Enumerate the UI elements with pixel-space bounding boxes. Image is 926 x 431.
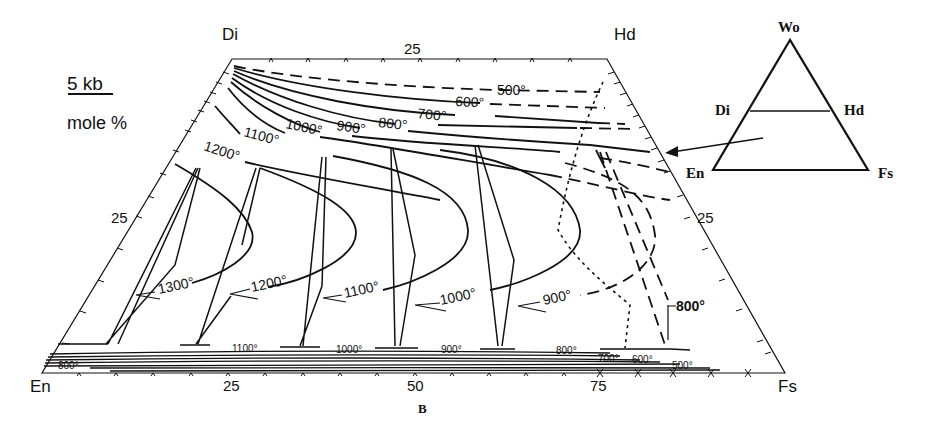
bottom-axis-label-50: 50 bbox=[407, 377, 424, 394]
inset-label-di: Di bbox=[715, 102, 730, 118]
svg-text:900°: 900° bbox=[541, 286, 573, 308]
inset-label-wo: Wo bbox=[778, 19, 800, 35]
corner-label-hd: Hd bbox=[614, 25, 636, 44]
svg-text:1100°: 1100° bbox=[342, 278, 380, 301]
top-axis-label-25: 25 bbox=[404, 40, 421, 57]
units-label: mole % bbox=[67, 113, 127, 133]
svg-text:700°: 700° bbox=[417, 105, 447, 124]
svg-text:1000°: 1000° bbox=[336, 344, 362, 355]
lower-isotherm-labels: 800° 1100° 1000° 900° 800° 700° 600° 500… bbox=[58, 343, 693, 371]
svg-text:1300°: 1300° bbox=[156, 274, 195, 297]
arrow-icon bbox=[672, 138, 763, 152]
bottom-axis-label-25: 25 bbox=[223, 377, 240, 394]
corner-label-di: Di bbox=[222, 25, 238, 44]
bottom-axis-label-75: 75 bbox=[590, 377, 607, 394]
svg-text:1200°: 1200° bbox=[202, 138, 242, 165]
pyroxene-quadrilateral-diagram: Di Hd En Fs 25 25 25 25 50 75 5 kb mole … bbox=[0, 0, 926, 431]
inset-triangle bbox=[665, 40, 868, 170]
corner-label-en: En bbox=[30, 377, 51, 396]
quadrilateral-frame bbox=[42, 59, 785, 373]
arrow-head-icon bbox=[665, 146, 678, 157]
corner-label-fs: Fs bbox=[778, 377, 797, 396]
right-axis-label-25: 25 bbox=[697, 209, 714, 226]
svg-text:800°: 800° bbox=[378, 114, 408, 133]
svg-text:800°: 800° bbox=[676, 298, 705, 314]
figure-caption: B bbox=[418, 401, 427, 416]
svg-text:500°: 500° bbox=[497, 82, 526, 98]
svg-text:900°: 900° bbox=[441, 344, 462, 355]
tie-lines bbox=[106, 145, 668, 346]
inset-label-en: En bbox=[686, 165, 705, 181]
svg-text:500°: 500° bbox=[672, 360, 693, 371]
pressure-label: 5 kb bbox=[67, 73, 103, 94]
svg-text:700°: 700° bbox=[598, 353, 619, 364]
svg-text:1000°: 1000° bbox=[438, 285, 477, 308]
inset-label-hd: Hd bbox=[844, 102, 865, 118]
left-axis-label-25: 25 bbox=[111, 209, 128, 226]
svg-text:1200°: 1200° bbox=[249, 272, 288, 295]
upper-isotherms bbox=[215, 66, 670, 200]
inset-label-fs: Fs bbox=[878, 165, 893, 181]
svg-text:900°: 900° bbox=[336, 117, 367, 137]
svg-text:800°: 800° bbox=[556, 345, 577, 356]
svg-text:600°: 600° bbox=[632, 354, 653, 365]
svg-text:1100°: 1100° bbox=[232, 343, 258, 354]
svg-text:1100°: 1100° bbox=[242, 123, 281, 148]
svg-text:800°: 800° bbox=[58, 360, 79, 371]
svg-text:600°: 600° bbox=[455, 93, 485, 110]
